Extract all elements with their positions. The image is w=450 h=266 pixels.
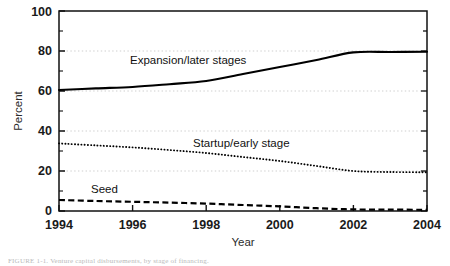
ytick-label-100: 100	[31, 5, 52, 19]
ytick-label-20: 20	[38, 164, 52, 178]
xtick-label-2000: 2000	[266, 218, 294, 232]
xtick-label-1998: 1998	[192, 218, 220, 232]
xtick-label-2004: 2004	[413, 218, 441, 232]
y-axis-title: Percent	[12, 90, 24, 130]
figure-caption: FIGURE 1-1. Venture capital disbursement…	[8, 257, 444, 266]
x-axis-title: Year	[231, 236, 254, 248]
xtick-label-1996: 1996	[119, 218, 147, 232]
series-label-expansion: Expansion/later stages	[130, 54, 247, 66]
line-chart: 0 20 40 60 80 100 1994 1996 1998 2000 20…	[0, 0, 450, 266]
ytick-label-0: 0	[45, 204, 52, 218]
xtick-label-2002: 2002	[339, 218, 367, 232]
xtick-label-1994: 1994	[45, 218, 73, 232]
ytick-label-80: 80	[38, 44, 52, 58]
ytick-label-60: 60	[38, 84, 52, 98]
series-label-startup: Startup/early stage	[193, 137, 290, 149]
series-label-seed: Seed	[91, 183, 118, 195]
ytick-label-40: 40	[38, 124, 52, 138]
figure-container: 0 20 40 60 80 100 1994 1996 1998 2000 20…	[0, 0, 450, 266]
plot-background	[59, 11, 427, 211]
